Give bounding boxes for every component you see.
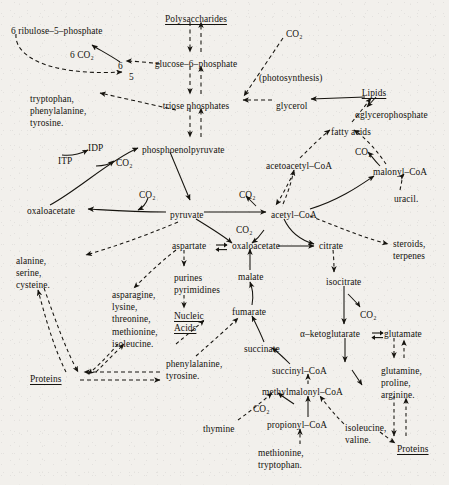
node-co2_pcc: CO₂ (253, 404, 270, 415)
node-six: 6 (118, 61, 123, 72)
node-photosynthesis: (photosynthesis) (259, 73, 323, 84)
node-succinyl_coa: succinyl–CoA (272, 366, 327, 377)
node-acetoacetyl_coa: acetoacetyl–CoA (266, 161, 332, 172)
node-met_trp: methionine, tryptophan. (258, 447, 304, 471)
node-glutamine_group: glutamine, proline, arginine. (381, 365, 422, 402)
node-methylmalonyl: methylmalonyl–CoA (262, 387, 343, 398)
edge-pep-to-pyruvate (170, 152, 190, 200)
node-succinate: succinate (244, 344, 280, 355)
edge-citrate-to-isocitrate (333, 250, 334, 272)
node-thymine: thymine (203, 424, 234, 435)
node-oxaloacetate_r: oxaloacetate (232, 241, 280, 252)
edge-acetylcoa-to-citrate (284, 219, 314, 244)
edge-acetylcoa-to-steroids (310, 216, 388, 244)
node-co2_pepck: CO₂ (116, 158, 133, 169)
edge-proteins-to-alanine (38, 290, 66, 372)
node-propionyl_coa: propionyl–CoA (267, 420, 327, 431)
edge-kg-co2 (352, 370, 362, 385)
edge-pyruvate-to-oxaloacetate-r (196, 219, 232, 243)
node-phe_tyr: phenylalanine, tyrosine. (166, 358, 222, 382)
node-aspartate: aspartate (172, 241, 206, 252)
edge-six-to-co2ppp (92, 45, 120, 62)
node-co2_pc: CO₂ (139, 190, 156, 201)
node-pyruvate: pyruvate (170, 210, 204, 221)
node-ribulose5p: 6 ribulose–5–phosphate (11, 26, 103, 37)
edge-aspartate-to-asparagine (134, 250, 176, 288)
node-five: 5 (129, 72, 134, 83)
node-proteins_right: Proteins (397, 444, 429, 455)
node-glycerol: glycerol (276, 101, 308, 112)
edge-pyruvate-to-oxaloacetate (88, 209, 166, 212)
node-asparagine_group: asparagine, lysine, threonine, methionin… (112, 289, 158, 350)
node-fumarate: fumarate (232, 307, 266, 318)
edge-alanine-to-proteins (44, 288, 78, 372)
edge-itp-to-idp (62, 150, 88, 155)
edge-isocitrate-co2 (348, 294, 360, 307)
node-co2_icdh: CO₂ (360, 310, 377, 321)
node-isocitrate: isocitrate (326, 277, 361, 288)
node-nucleic_acids: Nucleic Acids (174, 310, 204, 334)
node-co2_photo: CO₂ (286, 29, 303, 40)
node-ketoglutarate: α–ketoglutarate (300, 329, 360, 340)
node-co2_ppp: 6 CO₂ (70, 50, 94, 61)
node-ile_val: isoleucine, valine. (345, 422, 386, 446)
node-malate: malate (238, 272, 264, 283)
node-steroids: steroids, terpenes (393, 238, 425, 262)
node-oxaloacetate_l: oxaloacetate (27, 206, 75, 217)
reversible-arrow-aspartate-oxaloacetate (215, 243, 227, 252)
node-polysaccharides: Polysaccharides (165, 14, 227, 25)
pathway-arrow-layer (0, 0, 449, 485)
node-co2_pdh: CO₂ (239, 190, 256, 201)
edge-acetylcoa-to-malonylcoa (310, 176, 374, 209)
node-uracil: uracil. (394, 194, 418, 205)
node-trp_phe_tyr: tryptophan, phenylalanine, tyrosine. (30, 93, 86, 130)
edge-acetoacetylcoa-to-acetylcoa (276, 172, 294, 205)
pathway-diagram-canvas: 6 ribulose–5–phosphate6 CO₂65Polysacchar… (0, 0, 449, 485)
node-itp: ITP (58, 156, 72, 167)
node-citrate: citrate (319, 241, 343, 252)
node-fatty_acids: fatty acids (331, 127, 371, 138)
node-acetyl_coa: acetyl–CoA (271, 210, 317, 221)
edge-pyruvate-to-alanine (86, 222, 178, 255)
edge-acetoacetylcoa-to-fattyacids (300, 130, 330, 158)
node-co2_me: CO₂ (236, 225, 253, 236)
node-triose_p: triose phosphates (163, 101, 230, 112)
node-lipids: Lipids (362, 88, 387, 99)
node-glutamate: glutamate (384, 329, 422, 340)
node-pep: phosphoenolpyruvate (142, 145, 225, 156)
node-malonyl_coa: malonyl–CoA (373, 167, 427, 178)
node-idp: IDP (88, 143, 103, 154)
node-glycerophosphate: αglycerophosphate (355, 110, 428, 121)
node-purines_pyr: purines pyrimidines (174, 272, 220, 296)
edge-succinate-to-fumarate (252, 316, 264, 342)
edge-fumarate-to-malate (250, 282, 253, 305)
node-alanine_group: alanine, serine, cysteine. (16, 255, 50, 292)
node-co2_malonyl: CO₂ (355, 147, 372, 158)
reversible-arrow-ketoglutarate-glutamate (371, 331, 383, 340)
node-proteins_left: Proteins (30, 374, 62, 385)
edge-lipids-to-glycerol (311, 97, 365, 99)
node-glucose6p: glucose–6–phosphate (155, 59, 238, 70)
edge-co2-to-triosep (244, 38, 283, 96)
